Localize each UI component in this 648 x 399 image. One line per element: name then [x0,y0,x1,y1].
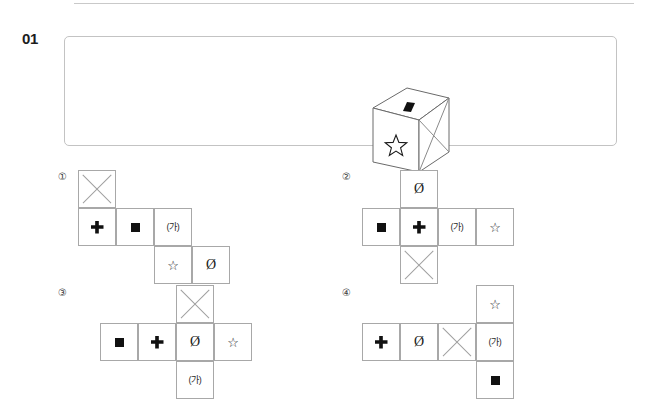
option-3-cell-plus [138,323,176,361]
plus-icon [151,336,164,349]
option-4-cell-square [476,361,514,399]
option-2-cell-ka: (가) [438,208,476,246]
ka-label: (가) [188,376,201,385]
option-1-cell-star: ☆ [154,246,192,284]
star-icon: ☆ [489,221,501,234]
option-1-cell-empty: Ø [192,246,230,284]
plus-icon [413,221,426,234]
question-stem-box [64,36,617,146]
ka-label: (가) [488,338,501,347]
x-cross-icon [439,324,475,360]
x-cross-icon [177,286,213,322]
empty-set-icon: Ø [190,335,200,349]
ka-label: (가) [166,223,179,232]
ka-label: (가) [450,223,463,232]
option-4-cell-ka: (가) [476,323,514,361]
option-4-cell-plus [362,323,400,361]
option-3-cell-square [100,323,138,361]
plus-icon [375,336,388,349]
option-2-cell-x [400,246,438,284]
option-3-cell-ka: (가) [176,361,214,399]
star-icon: ☆ [167,259,179,272]
option-3-cell-empty: Ø [176,323,214,361]
option-1-cell-plus [78,208,116,246]
option-4-cell-x [438,323,476,361]
top-divider-rule [74,3,634,4]
option-2-label[interactable]: ② [342,172,351,182]
option-1-label[interactable]: ① [58,172,67,182]
option-2-cell-square [362,208,400,246]
empty-set-icon: Ø [414,182,424,196]
option-2-cell-star: ☆ [476,208,514,246]
option-2-cell-plus [400,208,438,246]
black-square-icon [491,376,500,385]
x-cross-icon [401,247,437,283]
x-cross-icon [79,171,115,207]
empty-set-icon: Ø [414,335,424,349]
option-1-cell-x [78,170,116,208]
option-1-cell-square [116,208,154,246]
empty-set-icon: Ø [206,258,216,272]
star-icon: ☆ [489,298,501,311]
black-square-icon [131,223,140,232]
option-3-label[interactable]: ③ [58,288,67,298]
option-1-cell-ka: (가) [154,208,192,246]
black-square-icon [377,223,386,232]
page-title: 01 [22,30,38,47]
option-4-label[interactable]: ④ [342,288,351,298]
plus-icon [91,221,104,234]
cube-figure [361,80,461,180]
option-3-cell-star: ☆ [214,323,252,361]
black-square-icon [115,338,124,347]
option-4-cell-empty: Ø [400,323,438,361]
option-4-cell-star: ☆ [476,285,514,323]
star-icon: ☆ [227,336,239,349]
option-3-cell-x [176,285,214,323]
option-2-cell-empty: Ø [400,170,438,208]
